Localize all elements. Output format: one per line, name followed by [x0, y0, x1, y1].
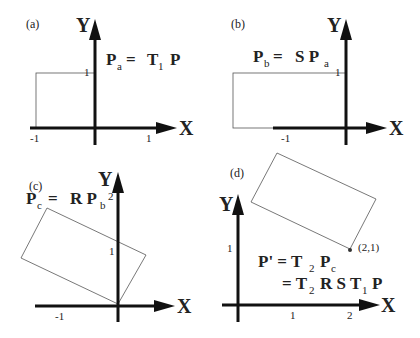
equation: P b = S P a — [253, 47, 329, 69]
tick-label: 2 — [347, 309, 353, 321]
x-axis-label: X — [179, 117, 194, 139]
x-axis-label: X — [381, 294, 396, 316]
point-label: (2,1) — [358, 241, 379, 254]
tick-label: 1 — [335, 66, 341, 78]
x-axis-label: X — [389, 117, 404, 139]
eq-text: R P — [70, 189, 97, 208]
eq-sub: 2 — [309, 284, 315, 296]
y-arrow-icon — [232, 194, 244, 215]
eq-sub: 1 — [362, 284, 368, 296]
eq-sub: a — [117, 60, 122, 72]
y-arrow-icon — [340, 19, 352, 40]
eq-sub: c — [331, 262, 336, 274]
eq-text: R S T — [320, 274, 362, 293]
tick-label: 1 — [146, 132, 152, 144]
eq-text: P — [320, 252, 330, 271]
x-arrow-icon — [154, 300, 175, 312]
eq-text: P — [372, 274, 382, 293]
tick-label: 1 — [109, 245, 115, 257]
tick-label: 2 — [108, 190, 114, 202]
tick-label: -1 — [30, 132, 39, 144]
panel-b: (b) Y X 1 -1 P b = S P a — [231, 14, 404, 145]
eq-text: P — [170, 50, 180, 69]
eq-sub: 1 — [158, 60, 164, 72]
transform-diagram: (a) Y X 1 -1 1 P a = T 1 P (b) Y X 1 -1 … — [0, 0, 420, 338]
rectangle — [251, 153, 376, 249]
tick-label: -1 — [55, 310, 64, 322]
tick-label: -1 — [281, 132, 290, 144]
y-arrow-icon — [89, 19, 101, 40]
x-axis-label: X — [177, 295, 192, 317]
eq-sub: b — [100, 199, 106, 211]
panel-label: (d) — [230, 166, 244, 180]
y-axis-label: Y — [98, 168, 113, 190]
x-arrow-icon — [156, 122, 177, 134]
panel-d: (d) (2,1) Y X 1 1 2 P' = T 2 P c = T 2 R… — [219, 153, 396, 322]
rectangle — [233, 73, 346, 128]
panel-a: (a) Y X 1 -1 1 P a = T 1 P — [26, 14, 194, 145]
eq-text: P' = T — [258, 252, 303, 271]
panel-label: (a) — [26, 17, 39, 31]
eq-text: P — [253, 47, 263, 66]
tick-label: 1 — [290, 309, 296, 321]
diagram-canvas: (a) Y X 1 -1 1 P a = T 1 P (b) Y X 1 -1 … — [0, 0, 420, 338]
eq-text: = — [48, 189, 58, 208]
eq-sub: c — [37, 199, 42, 211]
panel-label: (b) — [231, 17, 245, 31]
eq-text: S P — [295, 47, 319, 66]
eq-text: = — [126, 50, 136, 69]
rectangle — [21, 208, 146, 304]
y-axis-label: Y — [76, 14, 91, 36]
rectangle — [36, 73, 95, 128]
panel-c: (c) Y X 2 1 -1 P c = R P b — [21, 168, 192, 322]
eq-text: = — [273, 47, 283, 66]
eq-text: = T — [282, 274, 308, 293]
tick-label: 1 — [227, 242, 233, 254]
eq-text: P — [26, 189, 36, 208]
y-axis-label: Y — [219, 193, 234, 215]
eq-text: P — [106, 50, 116, 69]
x-arrow-icon — [366, 122, 387, 134]
x-arrow-icon — [359, 299, 380, 311]
eq-sub: a — [324, 57, 329, 69]
point-marker — [348, 248, 352, 252]
eq-sub: 2 — [309, 262, 315, 274]
eq-sub: b — [264, 57, 270, 69]
equation: P' = T 2 P c = T 2 R S T 1 P — [258, 252, 382, 296]
tick-label: 1 — [84, 66, 90, 78]
equation: P a = T 1 P — [106, 50, 180, 72]
y-axis-label: Y — [327, 14, 342, 36]
y-arrow-icon — [112, 172, 124, 193]
